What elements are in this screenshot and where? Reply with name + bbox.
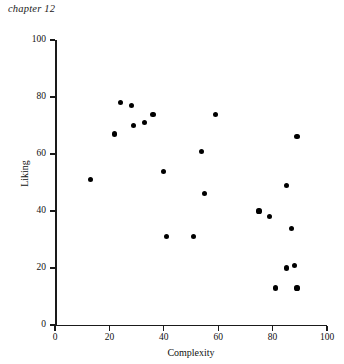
data-point [294, 285, 299, 290]
x-tick-mark [218, 326, 219, 331]
data-point [284, 183, 289, 188]
data-point [191, 234, 196, 239]
y-axis-line [55, 40, 57, 326]
data-point [118, 100, 123, 105]
x-tick-label: 40 [149, 333, 179, 343]
y-tick-label-wrap: 100 [0, 35, 46, 45]
y-tick-label: 0 [18, 320, 46, 330]
y-tick-label-wrap: 20 [0, 263, 46, 273]
data-point [164, 234, 169, 239]
data-point [88, 177, 93, 182]
data-point [294, 134, 299, 139]
x-tick-mark [109, 326, 110, 331]
data-point [112, 131, 117, 136]
data-point [213, 112, 218, 117]
y-tick-mark [50, 39, 55, 40]
x-tick-label: 20 [94, 333, 124, 343]
data-point [161, 169, 166, 174]
x-tick-label: 100 [312, 333, 342, 343]
x-axis-line [55, 325, 327, 327]
x-axis-title: Complexity [55, 347, 327, 358]
y-tick-label: 80 [18, 92, 46, 102]
y-tick-label-wrap: 40 [0, 206, 46, 216]
data-point [273, 285, 278, 290]
data-point [292, 263, 297, 268]
y-tick-label: 100 [18, 35, 46, 45]
data-point [256, 208, 261, 213]
x-tick-label: 80 [258, 333, 288, 343]
x-tick-label: 0 [40, 333, 70, 343]
x-tick-mark [54, 326, 55, 331]
y-tick-mark [50, 153, 55, 154]
y-tick-label: 20 [18, 263, 46, 273]
y-tick-mark [50, 267, 55, 268]
data-point [267, 214, 272, 219]
y-axis-title: Liking [19, 144, 30, 204]
data-point [284, 265, 289, 270]
y-tick-label-wrap: 80 [0, 92, 46, 102]
scatter-plot-page: chapter 12 020406080100 020406080100 Lik… [0, 0, 344, 364]
y-tick-label: 40 [18, 206, 46, 216]
data-point [202, 191, 207, 196]
data-point [131, 123, 136, 128]
data-point [199, 149, 204, 154]
data-point [150, 112, 155, 117]
data-point [289, 226, 294, 231]
data-point [129, 103, 134, 108]
plot-area: 020406080100 020406080100 Liking Complex… [0, 0, 344, 364]
x-tick-mark [163, 326, 164, 331]
x-tick-mark [272, 326, 273, 331]
x-tick-mark [326, 326, 327, 331]
y-tick-label-wrap: 0 [0, 320, 46, 330]
y-tick-mark [50, 96, 55, 97]
y-tick-mark [50, 210, 55, 211]
data-point [142, 120, 147, 125]
x-tick-label: 60 [203, 333, 233, 343]
